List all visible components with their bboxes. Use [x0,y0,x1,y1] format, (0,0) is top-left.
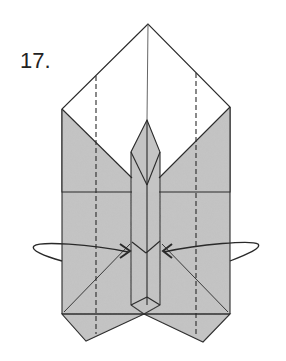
origami-diagram [0,0,286,361]
